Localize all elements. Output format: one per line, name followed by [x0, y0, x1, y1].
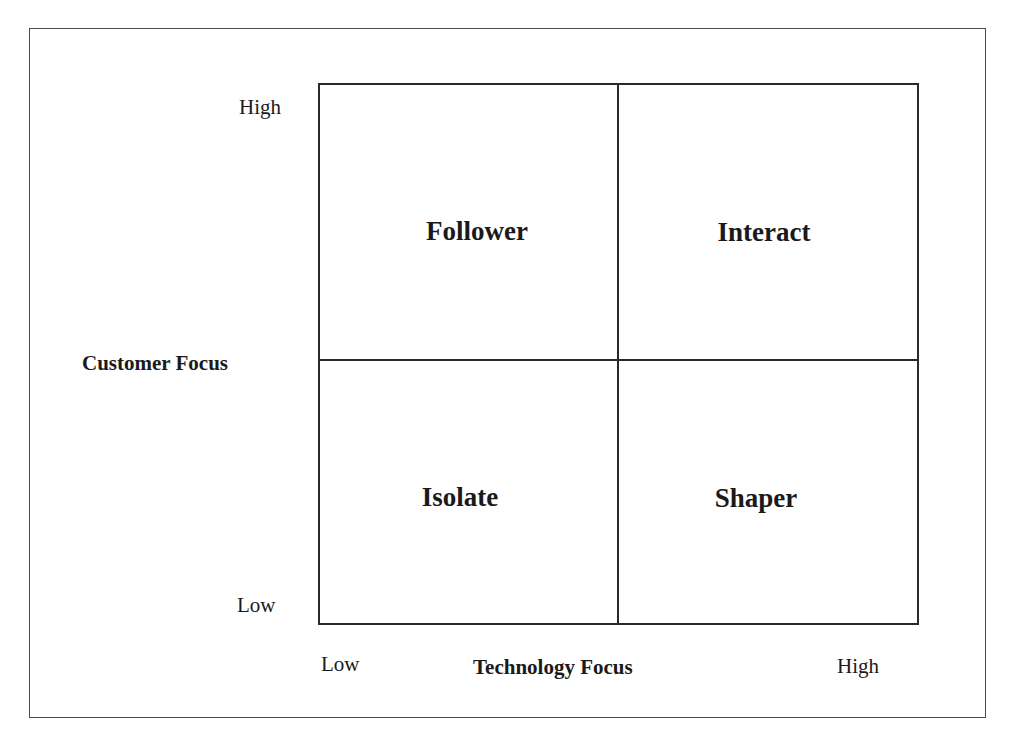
y-axis-title: Customer Focus: [82, 351, 228, 376]
x-axis-high-label: High: [837, 654, 879, 679]
horizontal-divider: [318, 359, 919, 361]
y-axis-low-label: Low: [237, 593, 276, 618]
quadrant-isolate: Isolate: [422, 482, 499, 513]
vertical-divider: [617, 83, 619, 625]
quadrant-follower: Follower: [426, 216, 528, 247]
x-axis-title: Technology Focus: [473, 655, 633, 680]
quadrant-interact: Interact: [718, 217, 811, 248]
quadrant-shaper: Shaper: [715, 483, 798, 514]
y-axis-high-label: High: [239, 95, 281, 120]
x-axis-low-label: Low: [321, 652, 360, 677]
